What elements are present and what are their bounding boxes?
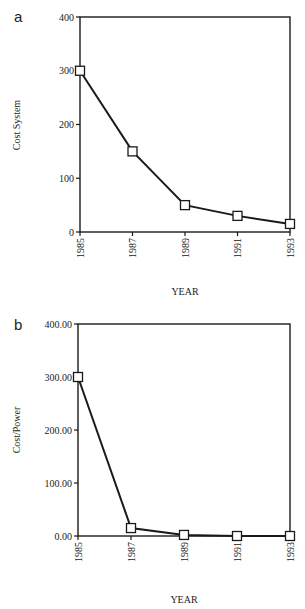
panel-label: b [14,316,22,333]
x-axis-label: YEAR [171,286,199,297]
y-tick-label: 300.00 [45,372,73,383]
y-tick-label: 0 [69,227,74,238]
data-point-marker [286,219,295,228]
y-axis-label: Cost/Power [11,406,22,453]
data-point-marker [127,524,136,533]
data-line [78,377,290,536]
x-tick-label: 1989 [179,542,190,562]
figure: a010020030040019851987198919911993Cost S… [0,0,305,609]
x-tick-label: 1987 [127,238,138,258]
x-tick-label: 1989 [180,238,191,258]
data-point-marker [76,66,85,75]
panel-label: a [14,8,23,25]
data-point-marker [181,201,190,210]
data-point-marker [128,147,137,156]
y-tick-label: 0.00 [55,531,73,542]
data-point-marker [286,532,295,541]
y-tick-label: 200.00 [45,425,73,436]
data-point-marker [233,211,242,220]
chart-panel-a: a010020030040019851987198919911993Cost S… [11,8,296,297]
y-tick-label: 400.00 [45,319,73,330]
y-tick-label: 400 [59,12,74,23]
plot-frame [80,17,290,232]
x-axis-label: YEAR [170,594,198,605]
x-tick-label: 1993 [285,542,296,562]
x-tick-label: 1985 [73,542,84,562]
data-point-marker [233,532,242,541]
x-tick-label: 1985 [75,238,86,258]
y-axis-label: Cost System [11,100,22,151]
chart-panel-b: b0.00100.00200.00300.00400.0019851987198… [11,316,296,605]
plot-frame [78,324,290,536]
y-tick-label: 100 [59,173,74,184]
data-point-marker [180,530,189,539]
x-tick-label: 1991 [232,238,243,258]
data-point-marker [74,373,83,382]
y-tick-label: 200 [59,119,74,130]
y-tick-label: 300 [59,65,74,76]
x-tick-label: 1993 [285,238,296,258]
x-tick-label: 1991 [232,542,243,562]
x-tick-label: 1987 [126,542,137,562]
y-tick-label: 100.00 [45,478,73,489]
